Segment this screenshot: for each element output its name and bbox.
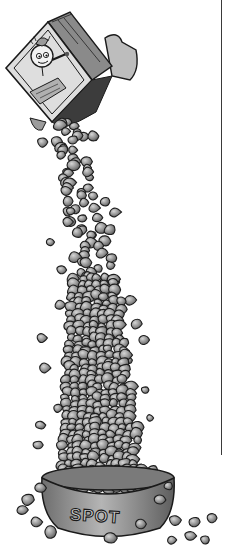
kibble-piece — [38, 138, 48, 147]
kibble-piece — [106, 254, 117, 262]
kibble-piece — [78, 215, 87, 222]
kibble-piece — [117, 375, 127, 384]
kibble-piece — [46, 239, 54, 246]
kibble-piece — [201, 536, 210, 544]
kibble-piece — [17, 506, 28, 515]
kibble-piece — [69, 146, 78, 154]
bowl-name-label: SPOT — [69, 505, 120, 527]
kibble-piece — [63, 196, 73, 206]
kibble-piece — [104, 533, 117, 543]
kibble-piece — [88, 131, 99, 141]
kibble-piece — [37, 334, 47, 343]
kibble-piece — [68, 136, 78, 144]
kibble-piece — [125, 296, 137, 306]
kibble-piece — [154, 495, 166, 504]
kibble-piece — [89, 192, 98, 200]
kibble-piece — [33, 441, 43, 448]
kibble-piece — [80, 258, 92, 268]
illustration: SPOT — [0, 0, 235, 552]
kibble-piece — [185, 532, 197, 541]
kibble-piece — [80, 198, 89, 207]
kibble-piece — [207, 514, 217, 523]
kibble-piece — [62, 128, 71, 136]
kibble-piece — [55, 300, 66, 309]
kibble-piece — [110, 208, 122, 217]
kibble-piece — [72, 228, 82, 238]
kibble-piece — [109, 399, 117, 407]
kibble-piece — [189, 518, 200, 527]
kibble-piece — [57, 266, 67, 274]
kibble-piece — [131, 319, 142, 329]
kibble-piece — [169, 516, 181, 526]
dog-food-box-icon — [6, 12, 137, 130]
kibble-piece — [168, 536, 177, 544]
kibble-piece — [66, 208, 75, 215]
kibble-piece — [139, 336, 150, 345]
kibble-piece — [57, 151, 66, 159]
kibble-piece — [136, 519, 147, 528]
kibble-piece — [35, 421, 45, 429]
kibble-piece — [89, 203, 100, 212]
kibble-pile — [33, 118, 158, 494]
kibble-piece — [134, 436, 142, 444]
kibble-piece — [22, 494, 34, 505]
kibble-piece — [164, 482, 172, 490]
kibble-piece — [31, 517, 43, 527]
kibble-piece — [56, 441, 67, 450]
kibble-piece — [40, 363, 51, 373]
kibble-piece — [141, 387, 149, 393]
kibble-piece — [100, 197, 110, 205]
dog-food-illustration: SPOT — [0, 0, 235, 552]
kibble-piece — [147, 415, 154, 421]
kibble-piece — [45, 526, 57, 539]
kibble-piece — [92, 213, 102, 221]
